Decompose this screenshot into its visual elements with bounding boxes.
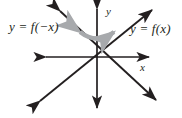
y-axis-label: y	[106, 6, 111, 17]
coordinate-plane-svg	[0, 0, 182, 118]
x-axis-label: x	[140, 62, 145, 73]
reflection-graph-figure: y = f(−x) y = f(x) y x	[0, 0, 182, 118]
right-function-label: y = f(x)	[130, 22, 171, 35]
left-function-label: y = f(−x)	[9, 20, 59, 33]
